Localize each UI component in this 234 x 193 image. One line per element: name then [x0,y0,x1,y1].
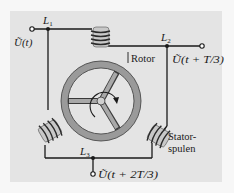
rotor-wheel [61,61,141,141]
rotor-hub [97,97,105,105]
voltage-u3: Ũ(t + 2T/3) [98,168,158,181]
voltage-u2: Ũ(t + T/3) [172,53,224,66]
stator-coil-top [91,27,110,47]
label-stator-line2: spulen [168,143,196,154]
terminal-u2 [200,44,204,48]
three-phase-motor-diagram: L1 L2 L3 Ũ(t) Ũ(t + T/3) Ũ(t + 2T/3) Rot… [0,0,234,193]
voltage-u1: Ũ(t) [14,36,33,49]
node-l3-junction [91,156,95,160]
label-rotor: Rotor [131,53,155,64]
label-stator-line1: Stator- [168,131,197,142]
terminal-u3 [91,172,95,176]
terminal-u1 [30,27,34,31]
